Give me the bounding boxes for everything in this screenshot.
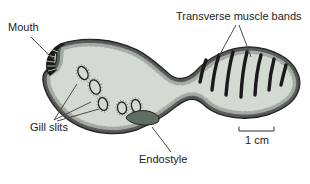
scale-bar [239,127,274,132]
mouth-label: Mouth [8,21,39,33]
gill-slits-label: Gill slits [30,121,68,133]
figure-canvas: Mouth Transverse muscle bands Gill slits… [0,0,310,184]
transverse-muscle-bands-label: Transverse muscle bands [176,10,302,22]
scale-bar-label: 1 cm [239,134,275,146]
endostyle-label: Endostyle [139,153,187,165]
endostyle-leader-line [152,127,171,152]
